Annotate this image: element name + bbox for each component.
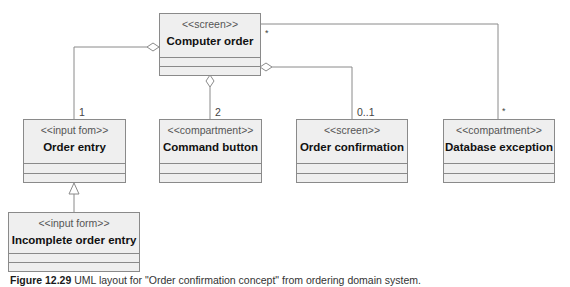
multiplicity-order-entry: 1 bbox=[79, 106, 85, 118]
class-database-exception[interactable]: <<compartment>> Database exception bbox=[443, 119, 555, 183]
operations-compartment bbox=[297, 173, 407, 183]
class-name: Incomplete order entry bbox=[9, 233, 139, 247]
figure-caption: Figure 12.29 UML layout for "Order confi… bbox=[10, 274, 421, 286]
stereotype-label: <<input fom>> bbox=[24, 124, 125, 137]
operations-compartment bbox=[444, 173, 554, 183]
class-order-entry[interactable]: <<input fom>> Order entry bbox=[23, 119, 126, 183]
class-name: Order entry bbox=[24, 140, 125, 154]
stereotype-label: <<screen>> bbox=[297, 124, 407, 137]
class-name: Order confirmation bbox=[297, 140, 407, 154]
multiplicity-order-confirmation: 0..1 bbox=[357, 106, 375, 118]
operations-compartment bbox=[160, 173, 261, 183]
class-name: Database exception bbox=[444, 140, 554, 154]
operations-compartment bbox=[9, 262, 139, 272]
aggregation-diamond-order-confirmation bbox=[260, 63, 272, 71]
generalization-arrowhead bbox=[69, 183, 79, 194]
multiplicity-command-button: 2 bbox=[215, 106, 221, 118]
stereotype-label: <<screen>> bbox=[160, 18, 260, 31]
association-line-database-exception bbox=[260, 24, 498, 119]
multiplicity-computer-order: * bbox=[265, 27, 269, 39]
aggregation-line-order-confirmation bbox=[272, 67, 352, 119]
stereotype-label: <<compartment>> bbox=[160, 124, 261, 137]
operations-compartment bbox=[160, 66, 260, 76]
figure-caption-text: UML layout for "Order confirmation conce… bbox=[74, 274, 421, 286]
operations-compartment bbox=[24, 173, 125, 183]
stereotype-label: <<input form>> bbox=[9, 217, 139, 230]
stereotype-label: <<compartment>> bbox=[444, 124, 554, 137]
figure-number: Figure 12.29 bbox=[10, 274, 71, 286]
aggregation-diamond-order-entry bbox=[147, 43, 159, 51]
class-order-confirmation[interactable]: <<screen>> Order confirmation bbox=[296, 119, 408, 183]
multiplicity-database-exception: * bbox=[502, 105, 506, 117]
aggregation-diamond-command-button bbox=[206, 75, 214, 87]
class-name: Computer order bbox=[160, 34, 260, 48]
class-incomplete-order-entry[interactable]: <<input form>> Incomplete order entry bbox=[8, 212, 140, 272]
class-name: Command button bbox=[160, 140, 261, 154]
class-command-button[interactable]: <<compartment>> Command button bbox=[159, 119, 262, 183]
class-computer-order[interactable]: <<screen>> Computer order bbox=[159, 13, 261, 76]
